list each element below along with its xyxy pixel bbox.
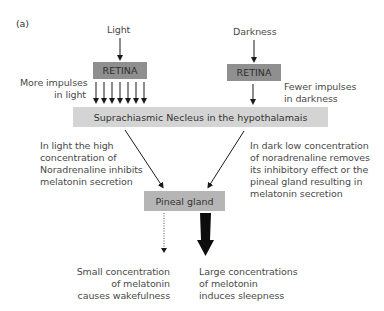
- darkness-label: Darkness: [233, 26, 277, 38]
- large-melatonin-note: Large concentrations of melotonin induce…: [199, 266, 298, 302]
- light-explanation: In light the high concentration of Norad…: [40, 140, 143, 188]
- dark-explanation-line: its inhibitory effect or the: [250, 164, 370, 176]
- retina-box-dark: RETINA: [227, 64, 281, 81]
- more-impulses-line-2: in light: [20, 89, 86, 101]
- light-explanation-line: melatonin secretion: [40, 176, 143, 188]
- small-melatonin-line: Small concentration: [62, 266, 170, 278]
- light-explanation-line: Noradrenaline inhibits: [40, 164, 143, 176]
- small-melatonin-line: causes wakefulness: [62, 290, 170, 302]
- dark-explanation-line: of noradrenaline removes: [250, 152, 370, 164]
- many-impulses-arrows: [96, 82, 144, 101]
- dark-explanation-line: melatonin secretion: [250, 188, 370, 200]
- light-explanation-line: concentration of: [40, 152, 143, 164]
- large-melatonin-thick-arrow: [197, 213, 214, 256]
- fewer-impulses-note: Fewer impulses in darkness: [284, 81, 356, 105]
- fewer-impulses-line-1: Fewer impulses: [284, 81, 356, 93]
- scn-box: Suprachiasmic Necleus in the hypothalama…: [73, 107, 328, 127]
- large-melatonin-line: induces sleepness: [199, 290, 298, 302]
- small-melatonin-line: of melatonin: [62, 278, 170, 290]
- pineal-gland-box: Pineal gland: [144, 191, 225, 211]
- large-melatonin-line: Large concentrations: [199, 266, 298, 278]
- retina-box-light: RETINA: [93, 62, 147, 79]
- small-melatonin-note: Small concentration of melatonin causes …: [62, 266, 170, 302]
- light-explanation-line: In light the high: [40, 140, 143, 152]
- fewer-impulses-line-2: in darkness: [284, 93, 356, 105]
- scn-to-pineal-right-arrow: [209, 131, 244, 186]
- small-melatonin-dotted-arrow: [161, 213, 167, 253]
- panel-label: (a): [16, 18, 29, 30]
- large-melatonin-line: of melotonin: [199, 278, 298, 290]
- more-impulses-line-1: More impulses: [20, 77, 86, 89]
- dark-explanation-line: In dark low concentration: [250, 140, 370, 152]
- more-impulses-note: More impulses in light: [20, 77, 86, 101]
- dark-explanation: In dark low concentration of noradrenali…: [250, 140, 370, 200]
- light-label: Light: [107, 24, 130, 36]
- dark-explanation-line: pineal gland resulting in: [250, 176, 370, 188]
